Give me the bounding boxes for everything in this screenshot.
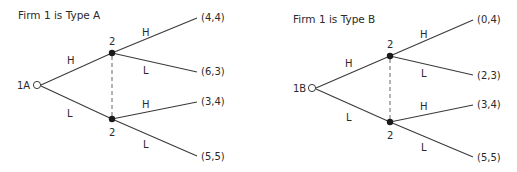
tree-a-move-lh: H (142, 99, 150, 110)
tree-a-edge-h (41, 53, 112, 85)
tree-a-edge-l (41, 86, 112, 119)
tree-b-edge-lh (390, 105, 473, 122)
tree-a-root-label: 1A (17, 80, 30, 91)
tree-type-b: Firm 1 is Type B 1B 2 2 H L H L H L (0,4… (293, 13, 501, 163)
tree-a-move-hl: L (143, 65, 149, 76)
tree-b-payoff-lh: (3,4) (477, 99, 501, 110)
tree-a-payoff-lh: (3,4) (201, 96, 225, 107)
tree-b-move-ll: L (421, 142, 427, 153)
tree-b-lower-player-label: 2 (387, 130, 393, 141)
tree-a-edge-lh (112, 102, 197, 119)
tree-b-edge-h (316, 56, 390, 88)
tree-a-lower-player-label: 2 (109, 127, 115, 138)
tree-b-root-label: 1B (293, 83, 306, 94)
tree-a-payoff-ll: (5,5) (201, 151, 225, 162)
tree-a-upper-decision-node (109, 50, 115, 56)
tree-a-edge-ll (112, 119, 197, 156)
tree-b-title: Firm 1 is Type B (293, 13, 375, 25)
tree-b-payoff-ll: (5,5) (477, 152, 501, 163)
tree-a-edge-hl (112, 53, 197, 72)
tree-a-root-node (33, 81, 40, 88)
tree-a-move-ll: L (143, 139, 149, 150)
tree-b-edge-ll (390, 122, 473, 157)
tree-b-edge-l (316, 89, 390, 122)
tree-b-lower-decision-node (387, 119, 393, 125)
tree-b-upper-player-label: 2 (387, 39, 393, 50)
tree-b-move-l: L (346, 112, 352, 123)
tree-b-upper-decision-node (387, 53, 393, 59)
tree-b-root-node (308, 84, 315, 91)
tree-b-edge-hh (390, 20, 473, 56)
tree-a-move-h: H (67, 55, 75, 66)
tree-b-payoff-hh: (0,4) (477, 14, 501, 25)
tree-a-upper-player-label: 2 (109, 36, 115, 47)
tree-b-move-h: H (345, 58, 353, 69)
tree-a-move-hh: H (142, 27, 150, 38)
tree-a-edge-hh (112, 18, 197, 53)
tree-a-lower-decision-node (109, 116, 115, 122)
tree-b-move-hh: H (420, 29, 428, 40)
tree-type-a: Firm 1 is Type A 1A 2 2 H L H L H L (4,4… (17, 9, 225, 162)
tree-a-move-l: L (67, 108, 73, 119)
game-tree-diagram: Firm 1 is Type A 1A 2 2 H L H L H L (4,4… (0, 0, 517, 172)
tree-b-move-lh: H (420, 101, 428, 112)
tree-a-title: Firm 1 is Type A (18, 9, 101, 21)
tree-a-payoff-hh: (4,4) (201, 12, 225, 23)
tree-b-edge-hl (390, 56, 473, 75)
tree-b-move-hl: L (421, 68, 427, 79)
tree-b-payoff-hl: (2,3) (477, 70, 501, 81)
tree-a-payoff-hl: (6,3) (201, 66, 225, 77)
